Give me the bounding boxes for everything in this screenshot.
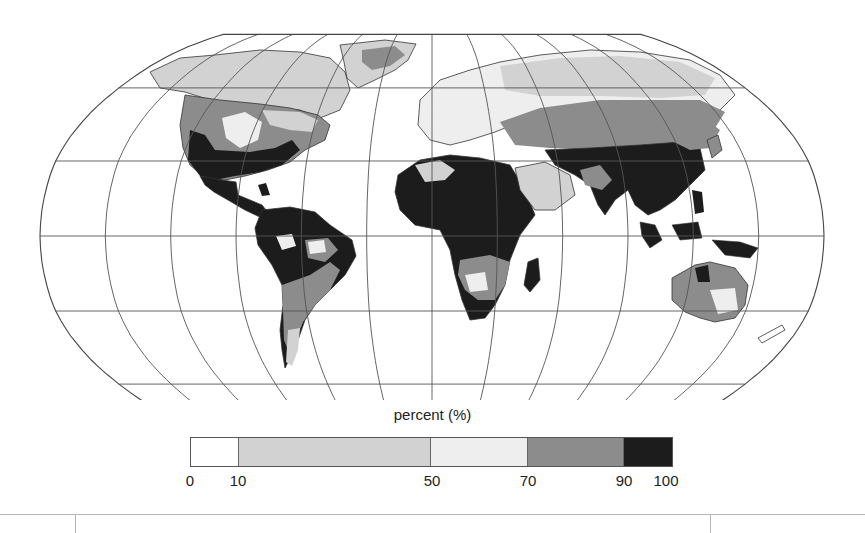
colorbar <box>190 437 673 467</box>
colorbar-bin-70-90 <box>528 438 624 466</box>
page-divider-tick-right <box>710 515 711 533</box>
colorbar-tick-10: 10 <box>230 472 247 489</box>
region-maritime-sea-2 <box>672 222 702 240</box>
region-caribbean <box>258 183 270 196</box>
page-divider-tick-left <box>75 515 76 533</box>
region-central-america <box>200 176 270 218</box>
legend-title: percent (%) <box>0 406 865 423</box>
colorbar-tick-100: 100 <box>653 472 678 489</box>
world-map <box>0 0 865 400</box>
region-sa-light2 <box>308 240 326 254</box>
region-australia <box>672 262 748 322</box>
region-maritime-sea-1 <box>640 222 662 248</box>
region-maritime-sea-3 <box>712 240 758 258</box>
colorbar-bin-10-50 <box>239 438 431 466</box>
colorbar-bin-0-10 <box>191 438 239 466</box>
colorbar-bin-50-70 <box>431 438 527 466</box>
colorbar-tick-50: 50 <box>424 472 441 489</box>
colorbar-tick-90: 90 <box>616 472 633 489</box>
region-patagonia <box>286 328 300 366</box>
colorbar-bin-90-100 <box>624 438 672 466</box>
region-philippines <box>692 190 704 214</box>
page-divider <box>0 514 865 515</box>
land-layer <box>150 40 785 368</box>
region-madagascar <box>524 258 540 292</box>
colorbar-tick-70: 70 <box>520 472 537 489</box>
region-new-zealand <box>758 325 785 343</box>
region-africa <box>395 155 535 320</box>
colorbar-tick-0: 0 <box>186 472 194 489</box>
